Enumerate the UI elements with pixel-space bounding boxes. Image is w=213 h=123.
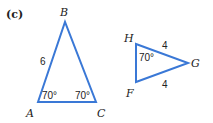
angle-h-measure: 70°	[139, 52, 154, 63]
vertex-a-label: A	[25, 107, 34, 120]
side-fg-length: 4	[162, 79, 168, 90]
side-ab-length: 6	[40, 56, 46, 67]
vertex-h-label: H	[123, 32, 134, 45]
vertex-f-label: F	[125, 87, 134, 100]
angle-a-measure: 70°	[42, 90, 57, 101]
diagram-canvas: (c) B A C 6 70° 70° H G F 4 4 70°	[0, 0, 213, 123]
triangle-abc: B A C 6 70° 70°	[25, 6, 106, 120]
vertex-b-label: B	[59, 6, 68, 19]
vertex-g-label: G	[191, 57, 200, 70]
vertex-c-label: C	[97, 107, 106, 120]
triangle-fgh: H G F 4 4 70°	[123, 32, 200, 100]
part-label: (c)	[6, 8, 23, 21]
side-hg-length: 4	[162, 40, 168, 51]
angle-c-measure: 70°	[75, 90, 90, 101]
